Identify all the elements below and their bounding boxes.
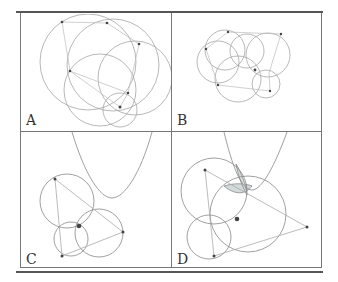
panel-b-diagram: [197, 30, 290, 102]
panel-a-diagram: [40, 14, 172, 127]
panel-d-diagram: [181, 132, 307, 259]
geometry-figure: [0, 0, 338, 282]
panel-label-b: B: [177, 112, 187, 128]
panel-c-diagram: [40, 132, 152, 257]
panel-label-d: D: [177, 251, 188, 267]
panel-label-c: C: [26, 251, 37, 267]
panel-d-points: [204, 169, 309, 258]
panel-label-a: A: [26, 112, 36, 128]
